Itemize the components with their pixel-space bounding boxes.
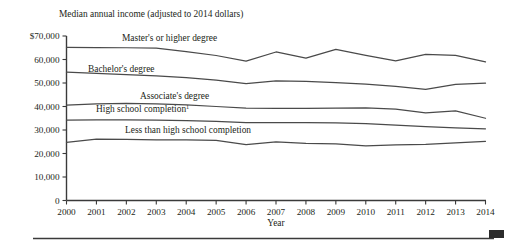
x-tick-label: 2003 [147,207,166,217]
series-label: Less than high school completion [125,125,251,135]
x-tick-label: 2005 [207,207,226,217]
x-tick-label: 2006 [237,207,256,217]
y-tick-label: $70,000 [30,31,60,41]
x-tick-label: 2007 [267,207,286,217]
line-chart: Median annual income (adjusted to 2014 d… [0,0,521,245]
chart-figure: Median annual income (adjusted to 2014 d… [0,0,521,245]
x-tick-label: 2000 [57,207,76,217]
y-tick-label: 0 [55,196,60,206]
series-label: Master's or higher degree [122,33,217,43]
series-line [67,72,486,89]
series-label: Bachelor's degree [88,64,155,74]
x-tick-label: 2012 [416,207,435,217]
series-label: High school completion1 [96,103,189,115]
x-tick-label: 2011 [387,207,405,217]
y-tick-label: 60,000 [34,55,60,65]
x-tick-label: 2014 [476,207,495,217]
y-tick-label: 20,000 [34,149,60,159]
y-tick-label: 30,000 [34,125,60,135]
series-line [67,139,486,146]
x-tick-label: 2013 [446,207,465,217]
series-label-footnote-marker: 1 [186,103,189,110]
y-tick-label: 50,000 [34,78,60,88]
y-axis-tick-labels: 010,00020,00030,00040,00050,00060,000$70… [30,31,60,206]
series-line [67,47,486,62]
x-tick-label: 2002 [117,207,136,217]
x-tick-label: 2009 [327,207,346,217]
x-axis-title: Year [267,218,285,228]
series-label: Associate's degree [140,91,209,101]
chart-title: Median annual income (adjusted to 2014 d… [59,9,243,20]
x-tick-label: 2001 [87,207,106,217]
page-marker-block [489,230,504,238]
y-tick-label: 40,000 [34,102,60,112]
x-tick-label: 2004 [177,207,196,217]
x-tick-label: 2008 [297,207,316,217]
x-axis-tick-labels: 2000200120022003200420052006200720082009… [57,207,495,217]
x-tick-label: 2010 [357,207,376,217]
y-tick-label: 10,000 [34,172,60,182]
